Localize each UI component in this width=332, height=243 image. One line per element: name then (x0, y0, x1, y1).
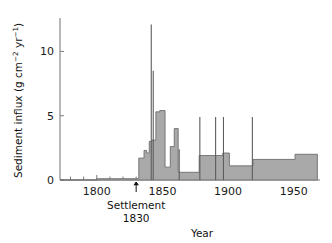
y-axis-title-sup2: −1 (11, 27, 20, 38)
y-tick-label: 10 (40, 45, 54, 58)
x-tick-label: 1800 (83, 185, 111, 198)
svg-text:Sediment influx (g cm−2 yr−1): Sediment influx (g cm−2 yr−1) (11, 23, 24, 178)
sediment-influx-area (60, 111, 317, 180)
plot-area (60, 24, 317, 180)
y-axis-title-sup1: −2 (11, 51, 20, 62)
chart-canvas: Sediment influx (g cm−2 yr−1) 0510 18001… (0, 0, 332, 243)
x-tick-label: 1900 (214, 185, 242, 198)
sediment-influx-chart: Sediment influx (g cm−2 yr−1) 0510 18001… (0, 0, 332, 243)
y-tick-label: 0 (47, 174, 54, 187)
y-axis-title: Sediment influx (g cm−2 yr−1) (11, 23, 24, 178)
y-tick-label: 5 (47, 110, 54, 123)
y-axis-title-mid: yr (12, 37, 24, 52)
x-axis-title: Year (190, 227, 214, 239)
x-tick-label: 1950 (280, 185, 308, 198)
x-tick-label: 1850 (148, 185, 176, 198)
settlement-label-line1: Settlement (107, 199, 165, 211)
settlement-arrow-icon (134, 182, 138, 192)
y-axis-title-tail: ) (12, 23, 24, 27)
settlement-label-line2: 1830 (123, 212, 150, 224)
y-axis-title-main: Sediment influx (g cm (12, 62, 24, 178)
